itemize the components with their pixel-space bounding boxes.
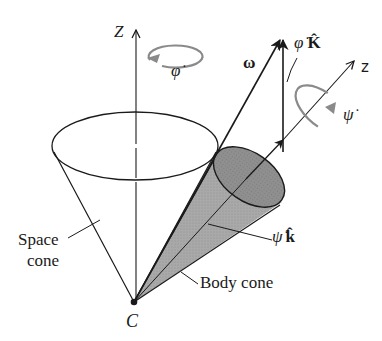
- phi-k-label-unit: K̂: [307, 33, 320, 52]
- diagram-canvas: Z φ̇ ω φ̇K̂ z ψ̇ ψ̇k̂ Space cone Body co…: [0, 0, 382, 341]
- body-cone-label: Body cone: [200, 274, 273, 291]
- space-cone-label-line1: Space: [18, 231, 59, 248]
- z-body-axis: [134, 61, 354, 302]
- diagram-svg: [0, 0, 382, 341]
- phi-k-label: φ̇K̂: [294, 34, 321, 51]
- psi-dot-rotation-icon: [287, 77, 338, 127]
- space-cone-label-line2: cone: [27, 252, 59, 269]
- apex-point: [131, 299, 138, 306]
- omega-label: ω: [243, 54, 255, 71]
- apex-label: C: [126, 312, 138, 330]
- psi-k-label-symbol: ψ̇: [272, 227, 283, 246]
- psi-k-label: ψ̇k̂: [272, 228, 295, 245]
- psi-dot-label: ψ̇: [343, 106, 354, 123]
- phi-dot-label: φ̇: [171, 62, 180, 79]
- z-body-axis-outer: [283, 61, 354, 140]
- phi-k-label-symbol: φ̇: [294, 33, 303, 52]
- phi-k-leader: [287, 58, 297, 82]
- z-space-axis-label: Z: [114, 23, 123, 40]
- space-cone-rim: [52, 112, 218, 180]
- psi-k-label-unit: k̂: [286, 227, 295, 246]
- body-cone-leader: [181, 272, 198, 284]
- space-cone-left-edge: [54, 152, 134, 302]
- z-body-axis-label: z: [361, 60, 369, 75]
